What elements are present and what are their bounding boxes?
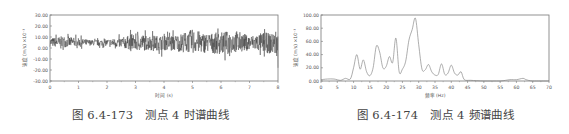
y-tick-label: 80.00 <box>306 26 319 31</box>
x-tick-label: 25 <box>399 85 405 90</box>
x-tick-label: 35 <box>432 85 438 90</box>
figure-caption: 图 6.4-173测点 4 时谱曲线 <box>72 106 229 122</box>
y-axis-title: 速度 (m/s) ×10⁻³ <box>21 28 28 67</box>
y-tick-label: 20.00 <box>35 24 48 29</box>
x-tick-label: 30 <box>416 85 422 90</box>
x-tick-label: 8 <box>277 85 280 90</box>
x-tick-label: 5 <box>336 85 339 90</box>
y-tick-label: 40.00 <box>306 52 319 57</box>
x-tick-label: 70 <box>546 85 552 90</box>
y-axis-title: 速度 (m/s) ×10⁻³ <box>292 28 299 67</box>
x-tick-label: 60 <box>513 85 519 90</box>
x-tick-label: 15 <box>367 85 373 90</box>
y-tick-label: 10.00 <box>35 35 48 40</box>
x-tick-label: 0 <box>49 85 52 90</box>
x-tick-label: 45 <box>465 85 471 90</box>
time-history-chart: 30.0020.0010.000.00-10.00-20.00-30.00012… <box>0 0 285 106</box>
x-tick-label: 4 <box>163 85 166 90</box>
plot-frame <box>50 15 278 81</box>
caption-text: 测点 4 时谱曲线 <box>145 108 228 122</box>
caption-text: 测点 4 频谱曲线 <box>430 108 513 122</box>
caption-number: 图 6.4-173 <box>72 108 133 122</box>
x-axis-title: 时间 (s) <box>155 92 173 99</box>
spectrum-line <box>321 18 549 81</box>
x-tick-label: 6 <box>220 85 223 90</box>
x-tick-label: 50 <box>481 85 487 90</box>
caption-number: 图 6.4-174 <box>357 108 418 122</box>
y-tick-label: -20.00 <box>33 68 48 73</box>
y-tick-label: 0.00 <box>38 46 48 51</box>
x-tick-label: 20 <box>383 85 389 90</box>
x-tick-label: 10 <box>351 85 357 90</box>
x-tick-label: 65 <box>530 85 536 90</box>
y-tick-label: 60.00 <box>306 39 319 44</box>
x-tick-label: 1 <box>77 85 80 90</box>
y-tick-label: 20.00 <box>306 65 319 70</box>
x-tick-label: 3 <box>134 85 137 90</box>
time-history-figure: 30.0020.0010.000.00-10.00-20.00-30.00012… <box>0 0 285 134</box>
y-tick-label: 0.00 <box>309 79 319 84</box>
y-tick-label: -30.00 <box>33 79 48 84</box>
spectrum-chart: 100.0080.0060.0040.0020.000.000510152025… <box>285 0 569 106</box>
x-axis-title: 频率 (Hz) <box>425 92 446 99</box>
signal-line <box>50 29 278 68</box>
x-tick-label: 7 <box>248 85 251 90</box>
x-tick-label: 5 <box>191 85 194 90</box>
x-tick-label: 55 <box>497 85 503 90</box>
spectrum-figure: 100.0080.0060.0040.0020.000.000510152025… <box>285 0 569 134</box>
x-tick-label: 0 <box>320 85 323 90</box>
x-tick-label: 2 <box>106 85 109 90</box>
plot-frame <box>321 15 549 81</box>
y-tick-label: 30.00 <box>35 13 48 18</box>
x-tick-label: 40 <box>448 85 454 90</box>
y-tick-label: -10.00 <box>33 57 48 62</box>
y-tick-label: 100.00 <box>303 13 319 18</box>
figure-caption: 图 6.4-174测点 4 频谱曲线 <box>357 106 514 122</box>
